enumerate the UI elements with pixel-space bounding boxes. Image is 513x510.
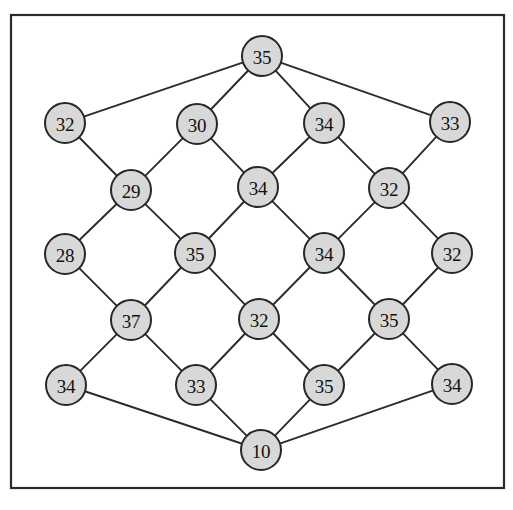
graph-node[interactable]: 34	[304, 103, 344, 143]
node-circle[interactable]	[304, 365, 344, 405]
graph-node[interactable]: 35	[242, 36, 282, 76]
graph-node[interactable]: 32	[239, 299, 279, 339]
node-circle[interactable]	[175, 233, 215, 273]
node-circle[interactable]	[111, 300, 151, 340]
graph-node[interactable]: 30	[177, 104, 217, 144]
diagram-canvas: 3532303433293432283534323732353433353410	[0, 0, 513, 510]
graph-node[interactable]: 34	[432, 364, 472, 404]
graph-node[interactable]: 32	[369, 168, 409, 208]
node-circle[interactable]	[111, 170, 151, 210]
graph-node[interactable]: 32	[432, 233, 472, 273]
graph-node[interactable]: 34	[46, 365, 86, 405]
graph-node[interactable]: 35	[175, 233, 215, 273]
node-circle[interactable]	[430, 102, 470, 142]
node-circle[interactable]	[242, 36, 282, 76]
node-circle[interactable]	[176, 365, 216, 405]
node-circle[interactable]	[369, 299, 409, 339]
node-circle[interactable]	[304, 233, 344, 273]
node-circle[interactable]	[45, 103, 85, 143]
node-circle[interactable]	[304, 103, 344, 143]
graph-node[interactable]: 34	[304, 233, 344, 273]
node-circle[interactable]	[45, 234, 85, 274]
node-circle[interactable]	[369, 168, 409, 208]
node-circle[interactable]	[432, 233, 472, 273]
graph-node[interactable]: 35	[369, 299, 409, 339]
graph-node[interactable]: 29	[111, 170, 151, 210]
graph-node[interactable]: 34	[238, 167, 278, 207]
node-circle[interactable]	[241, 430, 281, 470]
node-circle[interactable]	[432, 364, 472, 404]
graph-node[interactable]: 33	[176, 365, 216, 405]
graph-node[interactable]: 37	[111, 300, 151, 340]
graph-node[interactable]: 35	[304, 365, 344, 405]
graph-node[interactable]: 32	[45, 103, 85, 143]
graph-node[interactable]: 33	[430, 102, 470, 142]
node-circle[interactable]	[239, 299, 279, 339]
node-circle[interactable]	[177, 104, 217, 144]
node-circle[interactable]	[46, 365, 86, 405]
graph-node[interactable]: 10	[241, 430, 281, 470]
graph-svg: 3532303433293432283534323732353433353410	[0, 0, 513, 510]
node-circle[interactable]	[238, 167, 278, 207]
graph-node[interactable]: 28	[45, 234, 85, 274]
